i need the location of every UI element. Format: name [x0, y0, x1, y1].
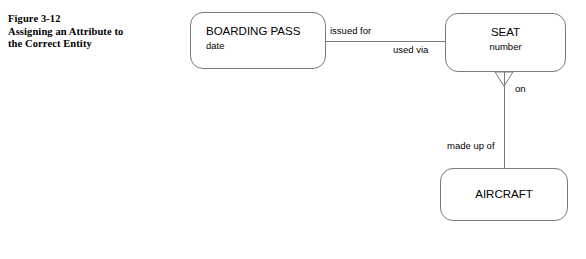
relationship-label-made-up-of: made up of	[447, 140, 495, 151]
entity-seat-title: SEAT	[445, 26, 566, 39]
entity-boarding-pass-attribute-date: date	[206, 39, 225, 52]
relationship-label-used-via: used via	[393, 44, 428, 55]
entity-boarding-pass-title: BOARDING PASS	[206, 25, 300, 38]
entity-aircraft-title: AIRCRAFT	[440, 188, 568, 201]
er-diagram: BOARDING PASS date SEAT number AIRCRAFT …	[0, 0, 586, 259]
entity-seat-attribute-number: number	[445, 40, 566, 53]
relationship-label-issued-for: issued for	[330, 25, 371, 36]
relationship-label-on: on	[515, 83, 526, 94]
